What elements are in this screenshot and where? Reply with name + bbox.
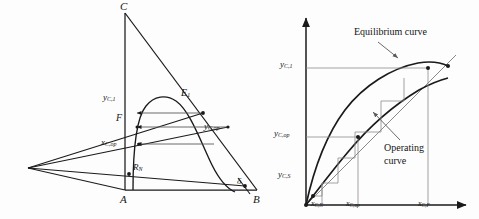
xtick-label-xCF: xC,F xyxy=(418,200,430,208)
ytick-label-yCop: yC,op xyxy=(274,129,289,139)
construction-points-left xyxy=(127,111,247,188)
ytick-label-yCS: yC,S xyxy=(278,170,290,180)
xtick-label-xCop: xC,op xyxy=(346,200,360,208)
leader-operating xyxy=(373,112,400,140)
left-triangle-outline xyxy=(125,13,257,190)
label-yC1-left: yC,1 xyxy=(103,93,115,103)
ytick-label-yC1: yC,1 xyxy=(280,60,292,70)
label-vertex-C: C xyxy=(120,1,127,12)
reference-gridlines xyxy=(306,68,428,205)
xtick-label-xCN: xC,N xyxy=(311,200,323,208)
leader-equilibrium xyxy=(378,42,398,58)
point-RN-dot xyxy=(127,172,131,176)
annotation-operating-curve-line1: Operating xyxy=(384,142,424,153)
label-point-E1: E1E1 xyxy=(181,88,190,99)
point-yCop-dot xyxy=(226,125,229,128)
label-xCop-left: xC,op xyxy=(101,138,116,148)
label-yCop-left: yC,op xyxy=(204,122,219,132)
label-point-F: F xyxy=(116,113,122,123)
annotation-operating-curve-line2: curve xyxy=(384,155,406,166)
label-vertex-A: A xyxy=(120,194,127,205)
label-point-RN: RN xyxy=(133,163,142,173)
label-vertex-B: B xyxy=(253,194,260,205)
right-chart-axes xyxy=(306,18,466,205)
figure-container: C A B E1E1 F RN δ yC,1 xC,op yC,op Equil… xyxy=(0,0,479,219)
point-F-mid-dot xyxy=(136,126,139,129)
label-point-delta: δ xyxy=(237,177,241,186)
annotation-leaders xyxy=(373,42,400,140)
annotation-equilibrium-curve: Equilibrium curve xyxy=(354,26,427,37)
point-xCop-dot xyxy=(137,142,140,145)
point-E1-dot xyxy=(201,111,205,115)
